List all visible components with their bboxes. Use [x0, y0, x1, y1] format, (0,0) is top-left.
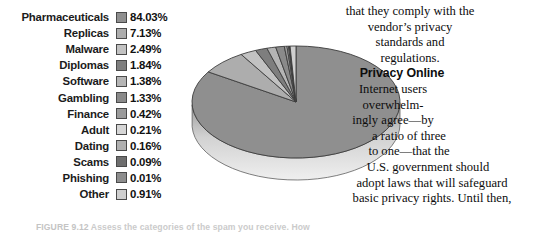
legend-label: Adult [81, 124, 109, 136]
legend-item-finance: Finance 0.42% [0, 106, 176, 122]
legend-item-gambling: Gambling 1.33% [0, 89, 176, 105]
paragraph-line: overwhelm- [318, 98, 468, 114]
legend-swatch-icon [116, 124, 127, 135]
paragraph-line: regulations. [318, 51, 502, 67]
legend-value: 1.84% [130, 59, 176, 71]
legend-label: Scams [73, 156, 109, 168]
legend-value: 7.13% [130, 27, 176, 39]
paragraph-line: basic privacy rights. Until then, [318, 191, 546, 207]
legend-label: Finance [67, 108, 109, 120]
legend-item-diplomas: Diplomas 1.84% [0, 57, 176, 73]
legend-swatch-icon [116, 92, 127, 103]
figure-caption-text: Assess the categories of the spam you re… [91, 222, 310, 232]
pie-legend: Pharmaceuticals 84.03% Replicas 7.13% Ma… [0, 9, 176, 202]
legend-swatch-icon [116, 12, 127, 23]
paragraph-line: to one—that the [318, 144, 500, 160]
legend-value: 2.49% [130, 43, 176, 55]
legend-item-pharmaceuticals: Pharmaceuticals 84.03% [0, 9, 176, 25]
figure-container: Pharmaceuticals 84.03% Replicas 7.13% Ma… [0, 0, 548, 234]
legend-swatch-icon [116, 76, 127, 87]
legend-item-other: Other 0.91% [0, 186, 176, 202]
legend-value: 0.09% [130, 156, 176, 168]
paragraph-line: that they comply with the [318, 4, 502, 20]
legend-label: Replicas [64, 27, 109, 39]
figure-caption: FIGURE 9.12 Assess the categories of the… [36, 222, 366, 232]
figure-caption-id: FIGURE 9.12 [36, 222, 89, 232]
legend-value: 1.38% [130, 75, 176, 87]
legend-label: Phishing [63, 172, 110, 184]
legend-swatch-icon [116, 28, 127, 39]
paragraph-line: a ratio of three [318, 129, 500, 145]
legend-value: 0.21% [130, 124, 176, 136]
legend-value: 1.33% [130, 92, 176, 104]
legend-value: 0.42% [130, 108, 176, 120]
legend-label: Malware [65, 43, 109, 55]
paragraph-line: Internet users [318, 82, 468, 98]
paragraph-line: U.S. government should [318, 160, 538, 176]
legend-label: Dating [75, 140, 109, 152]
section-heading-privacy-online: Privacy Online [318, 66, 486, 82]
legend-value: 0.01% [130, 172, 176, 184]
legend-item-dating: Dating 0.16% [0, 138, 176, 154]
legend-value: 0.91% [130, 188, 176, 200]
paragraph-line: standards and [318, 35, 502, 51]
legend-label: Diplomas [59, 59, 109, 71]
legend-swatch-icon [116, 189, 127, 200]
legend-item-software: Software 1.38% [0, 73, 176, 89]
paragraph-line: ingly agree—by [318, 113, 468, 129]
legend-swatch-icon [116, 140, 127, 151]
legend-value: 84.03% [130, 11, 176, 23]
legend-swatch-icon [116, 60, 127, 71]
legend-swatch-icon [116, 44, 127, 55]
legend-item-malware: Malware 2.49% [0, 41, 176, 57]
article-text-column: that they comply with the vendor’s priva… [318, 4, 546, 207]
paragraph-line: vendor’s privacy [318, 20, 502, 36]
legend-label: Software [62, 75, 109, 87]
legend-item-adult: Adult 0.21% [0, 122, 176, 138]
paragraph-line: adopt laws that will safeguard [318, 176, 546, 192]
legend-label: Pharmaceuticals [21, 11, 109, 23]
legend-item-phishing: Phishing 0.01% [0, 170, 176, 186]
legend-label: Other [80, 188, 109, 200]
legend-label: Gambling [58, 92, 109, 104]
legend-value: 0.16% [130, 140, 176, 152]
legend-swatch-icon [116, 156, 127, 167]
legend-item-replicas: Replicas 7.13% [0, 25, 176, 41]
legend-swatch-icon [116, 108, 127, 119]
legend-swatch-icon [116, 172, 127, 183]
legend-item-scams: Scams 0.09% [0, 154, 176, 170]
